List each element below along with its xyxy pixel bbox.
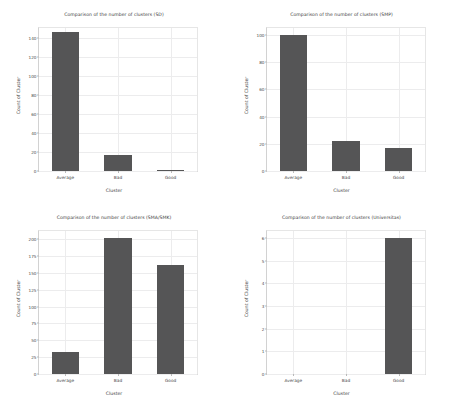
plot-area: 020406080100AverageBadGood bbox=[266, 27, 426, 172]
y-tick-mark bbox=[37, 289, 39, 290]
x-axis-label: Cluster bbox=[228, 391, 455, 396]
x-tick-label: Bad bbox=[342, 378, 350, 383]
y-tick-label: 60 bbox=[259, 87, 264, 92]
x-tick-mark bbox=[171, 374, 172, 376]
y-tick-label: 5 bbox=[262, 258, 265, 263]
chart-panel-smp: Comparison of the number of clusters (SM… bbox=[228, 0, 455, 203]
y-tick-label: 1 bbox=[262, 349, 265, 354]
x-tick-mark bbox=[346, 374, 347, 376]
x-tick-label: Average bbox=[57, 378, 75, 383]
x-tick-mark bbox=[118, 374, 119, 376]
y-tick-label: 100 bbox=[29, 73, 37, 78]
x-tick-mark bbox=[118, 171, 119, 173]
y-tick-label: 3 bbox=[262, 303, 265, 308]
chart-panel-universitas: Comparison of the number of clusters (Un… bbox=[228, 203, 455, 405]
bar bbox=[104, 155, 131, 171]
x-axis-label: Cluster bbox=[228, 188, 455, 193]
x-tick-mark bbox=[293, 374, 294, 376]
y-tick-label: 100 bbox=[29, 304, 37, 309]
x-gridline bbox=[118, 28, 119, 171]
x-tick-label: Bad bbox=[114, 175, 122, 180]
x-tick-label: Bad bbox=[342, 175, 350, 180]
y-tick-label: 20 bbox=[259, 141, 264, 146]
x-tick-label: Good bbox=[393, 175, 404, 180]
chart-panel-sd: Comparison of the number of clusters (SD… bbox=[0, 0, 228, 203]
y-axis-label: Count of Cluster bbox=[244, 269, 249, 329]
chart-title: Comparison of the number of clusters (Un… bbox=[228, 215, 455, 220]
y-tick-mark bbox=[265, 260, 267, 261]
y-tick-label: 25 bbox=[31, 355, 36, 360]
y-tick-mark bbox=[37, 132, 39, 133]
y-tick-label: 40 bbox=[31, 130, 36, 135]
x-axis-label: Cluster bbox=[0, 188, 228, 193]
y-tick-mark bbox=[37, 357, 39, 358]
x-tick-mark bbox=[171, 171, 172, 173]
y-tick-mark bbox=[265, 62, 267, 63]
chart-title: Comparison of the number of clusters (SM… bbox=[0, 215, 228, 220]
y-tick-mark bbox=[265, 171, 267, 172]
x-tick-mark bbox=[399, 171, 400, 173]
y-tick-label: 6 bbox=[262, 235, 265, 240]
y-tick-mark bbox=[37, 323, 39, 324]
x-gridline bbox=[346, 231, 347, 374]
plot-area: 0123456AverageBadGood bbox=[266, 230, 426, 375]
y-tick-label: 0 bbox=[34, 169, 37, 174]
y-tick-mark bbox=[37, 171, 39, 172]
bar bbox=[385, 238, 412, 374]
y-tick-label: 4 bbox=[262, 281, 265, 286]
y-tick-mark bbox=[265, 143, 267, 144]
y-tick-mark bbox=[37, 239, 39, 240]
x-tick-mark bbox=[65, 171, 66, 173]
x-tick-label: Good bbox=[165, 378, 176, 383]
y-tick-label: 0 bbox=[262, 372, 265, 377]
y-tick-label: 80 bbox=[259, 60, 264, 65]
y-tick-mark bbox=[37, 75, 39, 76]
bar bbox=[385, 148, 412, 171]
x-tick-mark bbox=[65, 374, 66, 376]
x-tick-label: Good bbox=[393, 378, 404, 383]
y-tick-label: 2 bbox=[262, 326, 265, 331]
x-gridline bbox=[171, 28, 172, 171]
x-gridline bbox=[293, 231, 294, 374]
y-tick-label: 0 bbox=[34, 372, 37, 377]
y-axis-label: Count of Cluster bbox=[244, 66, 249, 126]
bar bbox=[52, 32, 79, 171]
chart-panel-sma-smk: Comparison of the number of clusters (SM… bbox=[0, 203, 228, 405]
y-tick-label: 0 bbox=[262, 169, 265, 174]
y-tick-mark bbox=[265, 351, 267, 352]
y-tick-mark bbox=[37, 94, 39, 95]
y-tick-label: 80 bbox=[31, 92, 36, 97]
y-tick-label: 200 bbox=[29, 237, 37, 242]
y-tick-label: 120 bbox=[29, 54, 37, 59]
y-tick-mark bbox=[265, 305, 267, 306]
x-tick-label: Average bbox=[285, 378, 303, 383]
y-tick-label: 20 bbox=[31, 149, 36, 154]
y-tick-label: 50 bbox=[31, 338, 36, 343]
y-tick-mark bbox=[265, 116, 267, 117]
y-tick-label: 150 bbox=[29, 270, 37, 275]
bar bbox=[157, 265, 184, 374]
y-tick-mark bbox=[37, 113, 39, 114]
y-tick-mark bbox=[37, 151, 39, 152]
y-tick-label: 100 bbox=[257, 32, 265, 37]
y-axis-label: Count of Cluster bbox=[16, 269, 21, 329]
y-tick-mark bbox=[265, 89, 267, 90]
y-tick-label: 40 bbox=[259, 114, 264, 119]
figure-grid: Comparison of the number of clusters (SD… bbox=[0, 0, 455, 405]
y-tick-mark bbox=[37, 374, 39, 375]
y-tick-mark bbox=[37, 56, 39, 57]
x-axis-label: Cluster bbox=[0, 391, 228, 396]
y-tick-mark bbox=[37, 272, 39, 273]
y-tick-mark bbox=[265, 237, 267, 238]
x-tick-label: Average bbox=[57, 175, 75, 180]
y-tick-label: 125 bbox=[29, 287, 37, 292]
plot-area: 0255075100125150175200AverageBadGood bbox=[38, 230, 198, 375]
x-tick-label: Good bbox=[165, 175, 176, 180]
y-tick-label: 175 bbox=[29, 253, 37, 258]
x-tick-mark bbox=[293, 171, 294, 173]
x-tick-mark bbox=[399, 374, 400, 376]
y-tick-mark bbox=[37, 306, 39, 307]
y-tick-mark bbox=[37, 340, 39, 341]
y-tick-mark bbox=[37, 37, 39, 38]
bar bbox=[52, 352, 79, 374]
